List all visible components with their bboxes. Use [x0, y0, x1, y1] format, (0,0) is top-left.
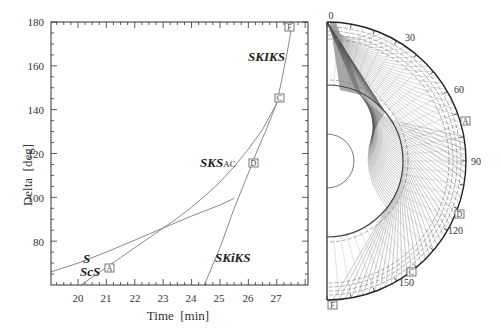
- y-tick-180: 180: [28, 16, 45, 28]
- y-tick-80: 80: [33, 236, 45, 248]
- x-tick-24: 24: [186, 292, 198, 304]
- figure: 80 100 120 140 160 180 20 21 22 23 24 25…: [0, 0, 501, 332]
- svg-text:A: A: [107, 264, 113, 273]
- phase-label-skiks: SKiKS: [215, 250, 250, 265]
- svg-text:D: D: [251, 159, 257, 168]
- x-tick-22: 22: [130, 292, 141, 304]
- angle-label-30: 30: [405, 32, 415, 43]
- ray-paths: [327, 22, 466, 300]
- x-tick-labels: 20 21 22 23 24 25 26 27: [73, 292, 283, 304]
- polar-marker-c: C: [407, 268, 416, 277]
- angle-label-60: 60: [454, 84, 464, 95]
- svg-text:C: C: [277, 94, 282, 103]
- travel-time-plot: 80 100 120 140 160 180 20 21 22 23 24 25…: [20, 16, 308, 323]
- x-tick-27: 27: [271, 292, 283, 304]
- phase-label-sks-sub: AC: [223, 159, 236, 169]
- y-tick-160: 160: [28, 60, 45, 72]
- polar-marker-d: D: [455, 210, 464, 219]
- marker-a: A: [105, 264, 114, 273]
- x-tick-20: 20: [73, 292, 85, 304]
- phase-label-scs: ScS: [80, 264, 100, 279]
- ray-path: [393, 199, 448, 231]
- marker-c: C: [275, 94, 284, 103]
- ray-path: [334, 237, 339, 300]
- ray-path: [381, 215, 426, 260]
- y-tick-labels: 80 100 120 140 160 180: [28, 16, 45, 248]
- svg-text:F: F: [330, 301, 335, 310]
- svg-text:A: A: [463, 117, 469, 126]
- x-tick-25: 25: [214, 292, 226, 304]
- svg-text:F: F: [287, 23, 292, 32]
- x-axis-title: Time [min]: [147, 308, 209, 323]
- marker-d: D: [249, 159, 258, 168]
- x-tick-21: 21: [101, 292, 112, 304]
- y-axis-title: Delta [deg]: [20, 144, 35, 206]
- x-tick-23: 23: [158, 292, 170, 304]
- angle-label-90: 90: [471, 156, 481, 167]
- polar-marker-a: A: [461, 117, 470, 126]
- x-tick-26: 26: [243, 292, 255, 304]
- polar-marker-f: F: [328, 301, 337, 310]
- angle-label-150: 150: [399, 277, 414, 288]
- svg-text:D: D: [457, 210, 463, 219]
- angle-label-0: 0: [329, 10, 334, 21]
- marker-f: F: [285, 23, 294, 32]
- svg-text:C: C: [409, 268, 414, 277]
- angle-label-120: 120: [448, 225, 463, 236]
- ray-path-plot: 0 30 60 90 120 150 A D C F: [193, 10, 481, 310]
- phase-label-sks-main: SKS: [200, 155, 223, 170]
- phase-label-skiks-upper: SKIKS: [248, 49, 285, 64]
- curve-s: [51, 198, 234, 272]
- phase-label-sks-ac: SKSAC: [200, 155, 236, 170]
- y-tick-140: 140: [28, 104, 45, 116]
- ray-path: [353, 232, 375, 291]
